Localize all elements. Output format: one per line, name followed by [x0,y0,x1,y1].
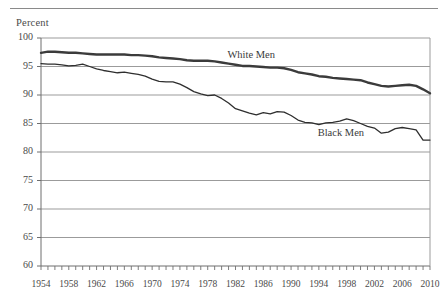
x-tick-label: 1966 [109,279,139,289]
x-tick-label: 1974 [165,279,195,289]
y-tick-label: 75 [7,174,33,185]
y-tick-label: 95 [7,60,33,71]
x-tick-label: 1978 [193,279,223,289]
y-tick-label: 80 [7,145,33,156]
series-label-black-men: Black Men [318,127,364,138]
x-tick-label: 1990 [276,279,306,289]
y-tick-label: 90 [7,88,33,99]
x-tick-label: 2002 [359,279,389,289]
series-line-black-men [41,64,430,140]
x-tick-label: 1970 [137,279,167,289]
x-tick-label: 2006 [387,279,417,289]
x-tick-label: 1994 [304,279,334,289]
series-label-white-men: White Men [227,49,275,60]
y-tick-label: 60 [7,259,33,270]
y-tick-label: 70 [7,202,33,213]
chart-plot-area [0,0,448,302]
x-tick-label: 2010 [415,279,445,289]
x-tick-label: 1954 [26,279,56,289]
y-tick-label: 100 [7,31,33,42]
x-tick-label: 1982 [221,279,251,289]
chart-figure: Percent 6065707580859095100 195419581962… [0,0,448,302]
x-tick-label: 1998 [332,279,362,289]
y-tick-label: 65 [7,231,33,242]
x-tick-label: 1962 [82,279,112,289]
x-tick-label: 1986 [248,279,278,289]
x-tick-label: 1958 [54,279,84,289]
y-tick-label: 85 [7,117,33,128]
